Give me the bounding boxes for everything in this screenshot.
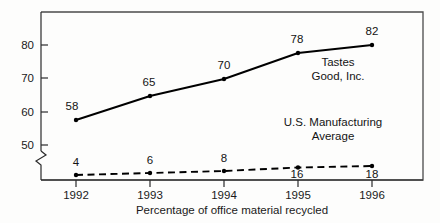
x-tick-label-1995: 1995 [285, 189, 311, 201]
y-tick-label-60: 60 [21, 106, 34, 118]
x-tick-label-1996: 1996 [359, 189, 385, 201]
y-axis-break-symbol [36, 151, 46, 180]
data-label-tastes-good-1996: 82 [366, 25, 379, 37]
series-us-average-marker [74, 173, 78, 177]
plot-frame [41, 12, 423, 180]
y-tick-label-70: 70 [21, 72, 34, 84]
data-label-us-average-1994: 8 [221, 152, 227, 164]
series-tastes-good-marker [370, 43, 374, 47]
x-tick-label-1992: 1992 [63, 189, 89, 201]
chart-page: 80 70 60 50 1992 1993 1994 1995 1996 Per… [0, 0, 440, 223]
data-label-us-average-1996: 18 [366, 168, 379, 180]
series-tastes-good-marker [296, 51, 300, 55]
series-annotation-tastes-good-line2: Good, Inc. [311, 70, 364, 82]
series-annotation-us-average-line2: Average [312, 130, 355, 142]
data-label-tastes-good-1993: 65 [143, 76, 156, 88]
series-tastes-good-marker [148, 94, 152, 98]
series-annotation-tastes-good-line1: Tastes [321, 56, 354, 68]
y-tick-label-80: 80 [21, 39, 34, 51]
data-label-tastes-good-1995: 78 [291, 33, 304, 45]
data-label-us-average-1992: 4 [73, 156, 80, 168]
series-tastes-good-marker [222, 77, 226, 81]
line-chart: 80 70 60 50 1992 1993 1994 1995 1996 Per… [0, 0, 440, 223]
series-us-average-marker [148, 171, 152, 175]
data-label-tastes-good-1992: 58 [66, 100, 79, 112]
x-tick-label-1993: 1993 [137, 189, 163, 201]
x-tick-label-1994: 1994 [211, 189, 237, 201]
y-tick-label-50: 50 [21, 139, 34, 151]
x-axis-caption: Percentage of office material recycled [136, 204, 328, 216]
data-label-us-average-1995: 16 [291, 168, 304, 180]
series-tastes-good-marker [74, 118, 78, 122]
series-us-average-marker [222, 169, 226, 173]
data-label-us-average-1993: 6 [147, 154, 153, 166]
data-label-tastes-good-1994: 70 [218, 59, 231, 71]
series-annotation-us-average-line1: U.S. Manufacturing [284, 116, 382, 128]
